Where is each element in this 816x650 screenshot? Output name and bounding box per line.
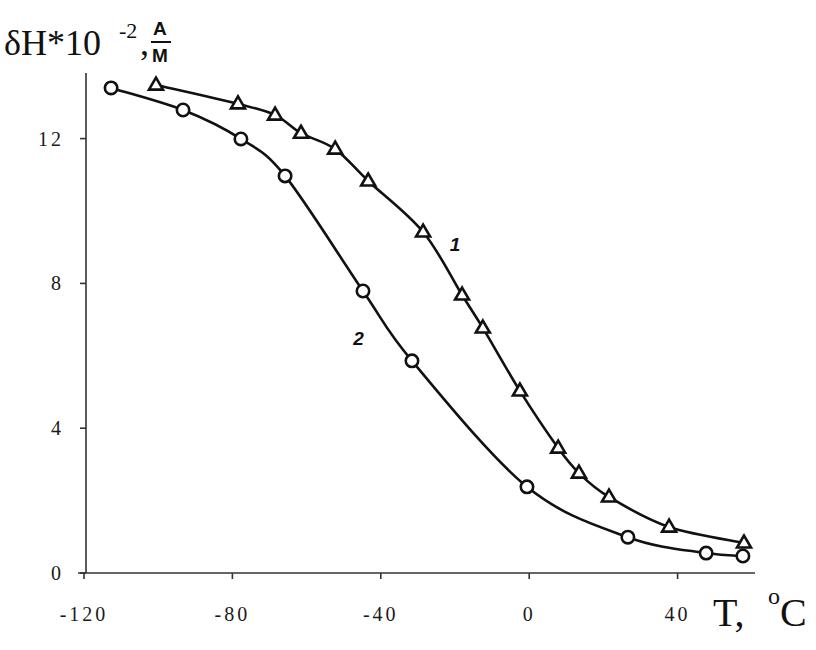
y-unit-numerator: A [153,18,167,39]
y-tick-label: 12 [38,128,64,150]
x-tick-label: -80 [215,603,251,625]
x-tick-label: -120 [60,603,109,625]
triangle-marker-icon [294,126,308,138]
x-tick-label: 0 [523,603,536,625]
triangle-marker-icon [602,490,616,502]
circle-marker-icon [622,531,634,543]
circle-marker-icon [279,170,291,182]
x-tick-label: 40 [665,603,691,625]
series-curve [111,88,743,556]
triangle-marker-icon [268,108,282,120]
y-axis-label-main: δH*10 [4,23,101,63]
circle-marker-icon [105,82,117,94]
series-label-1: 1 [450,234,461,255]
x-tick-label: -40 [363,603,399,625]
series-1: 1 [149,78,751,548]
triangle-marker-icon [149,78,163,90]
circle-marker-icon [700,547,712,559]
axis-ticks: -120-80-4004004812 [38,128,691,625]
circle-marker-icon [357,285,369,297]
y-axis-label-exponent: -2 [119,18,137,43]
series-2: 2 [105,82,749,562]
series-curve [156,85,744,543]
temperature-field-chart: -120-80-4004004812 12 δH*10 -2 , A M T, … [0,0,816,650]
data-series: 12 [105,78,751,563]
triangle-marker-icon [737,536,751,548]
circle-marker-icon [406,355,418,367]
y-axis-label-comma: , [140,23,149,63]
y-axis-label: δH*10 -2 , A M [4,18,171,66]
axes [78,73,755,573]
y-unit-denominator: M [152,45,168,66]
circle-marker-icon [177,104,189,116]
y-tick-label: 4 [51,417,64,439]
triangle-marker-icon [231,96,245,108]
y-tick-label: 8 [51,272,64,294]
x-axis-label-main: T, [713,590,744,635]
circle-marker-icon [521,481,533,493]
y-tick-label: 0 [51,562,64,584]
series-label-2: 2 [352,328,364,349]
circle-marker-icon [235,133,247,145]
x-axis-label-degree: o [768,583,780,609]
triangle-marker-icon [328,142,342,154]
x-axis-label: T, o C [713,583,807,635]
circle-marker-icon [737,550,749,562]
triangle-marker-icon [662,520,676,532]
x-axis-label-unit: C [780,590,807,635]
triangle-marker-icon [455,288,469,300]
